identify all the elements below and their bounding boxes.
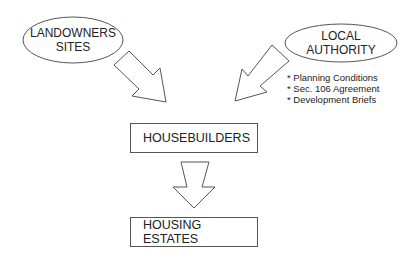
landowners-label: LANDOWNERS SITES: [23, 26, 123, 54]
arrow-housebuilders-to-housing-estates: [173, 162, 215, 208]
instrument-item: * Sec. 106 Agreement: [287, 83, 379, 94]
instrument-item: * Development Briefs: [287, 94, 379, 105]
housing-estates-box: HOUSING ESTATES: [130, 217, 258, 247]
housebuilders-label: HOUSEBUILDERS: [143, 131, 250, 145]
instrument-item: * Planning Conditions: [287, 72, 379, 83]
arrow-local-authority-to-housebuilders: [235, 45, 289, 101]
arrow-landowners-to-housebuilders: [114, 51, 166, 102]
local-authority-label: LOCAL AUTHORITY: [285, 29, 397, 57]
local-authority-instruments-list: * Planning Conditions * Sec. 106 Agreeme…: [287, 72, 379, 105]
local-authority-line2: AUTHORITY: [285, 43, 397, 57]
landowners-line2: SITES: [23, 40, 123, 54]
housing-estates-label: HOUSING ESTATES: [143, 218, 257, 246]
landowners-line1: LANDOWNERS: [23, 26, 123, 40]
housebuilders-box: HOUSEBUILDERS: [130, 123, 258, 153]
local-authority-line1: LOCAL: [285, 29, 397, 43]
